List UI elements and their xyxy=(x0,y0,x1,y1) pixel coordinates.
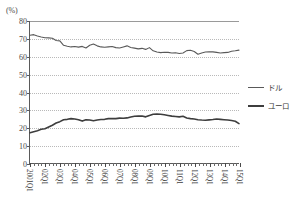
y-axis-tick-label: 40 xyxy=(19,88,27,97)
legend-item: ユーロ xyxy=(248,100,289,111)
x-axis-tick-mark xyxy=(229,163,230,166)
x-axis-tick-mark xyxy=(143,163,144,166)
x-axis-tick-mark xyxy=(165,163,166,167)
x-axis-tick-label: 13Q1 xyxy=(205,169,213,185)
x-axis-tick-mark xyxy=(203,163,204,166)
x-axis-tick-mark xyxy=(233,163,234,166)
x-axis-tick-mark xyxy=(83,163,84,166)
x-axis-tick-mark xyxy=(41,163,42,166)
x-axis-tick-label: 10Q1 xyxy=(160,169,168,185)
x-axis-tick-mark xyxy=(236,163,237,166)
x-axis-tick-mark xyxy=(131,163,132,166)
y-axis-tick-label: 30 xyxy=(19,106,27,115)
y-axis-tick-label: 60 xyxy=(19,52,27,61)
legend-label: ドル xyxy=(268,82,282,93)
x-axis-tick-mark xyxy=(221,163,222,166)
x-axis-tick-mark xyxy=(105,163,106,167)
x-axis-tick-label: 06Q1 xyxy=(100,169,108,185)
y-axis-tick-label: 80 xyxy=(19,17,27,26)
x-axis-tick-label: 04Q1 xyxy=(70,169,78,185)
chart-root: (%) 01020304050607080 2001Q102Q103Q104Q1… xyxy=(0,0,305,216)
x-axis-tick-mark xyxy=(135,163,136,167)
x-axis-tick-label: 09Q1 xyxy=(145,169,153,185)
x-axis-tick-mark xyxy=(161,163,162,166)
x-axis-tick-mark xyxy=(199,163,200,166)
x-axis-tick-mark xyxy=(60,163,61,167)
x-axis-tick-mark xyxy=(75,163,76,167)
legend-label: ユーロ xyxy=(268,100,289,111)
x-axis-tick-label: 11Q1 xyxy=(175,169,183,184)
x-axis-tick-mark xyxy=(146,163,147,166)
x-axis-tick-mark xyxy=(150,163,151,167)
x-axis-tick-mark xyxy=(49,163,50,166)
x-axis-tick-mark xyxy=(180,163,181,167)
x-axis-tick-mark xyxy=(98,163,99,166)
x-axis-tick-mark xyxy=(184,163,185,166)
x-axis-tick-mark xyxy=(169,163,170,166)
x-axis-tick-mark xyxy=(176,163,177,166)
x-axis-tick-mark xyxy=(109,163,110,166)
x-axis-tick-label: 15Q1 xyxy=(235,169,243,185)
x-axis-tick-mark xyxy=(120,163,121,167)
x-axis-tick-label: 08Q1 xyxy=(130,169,138,185)
x-axis-tick-mark xyxy=(86,163,87,166)
y-axis-tick-label: 10 xyxy=(19,142,27,151)
x-axis-tick-mark xyxy=(71,163,72,166)
y-axis-unit-label: (%) xyxy=(6,6,17,15)
x-axis-tick-mark xyxy=(191,163,192,166)
x-axis-tick-mark xyxy=(139,163,140,166)
x-axis-tick-mark xyxy=(116,163,117,166)
x-axis-tick-mark xyxy=(188,163,189,166)
series-line xyxy=(30,35,239,55)
x-axis-tick-mark xyxy=(218,163,219,166)
x-axis-tick-mark xyxy=(56,163,57,166)
x-axis-tick-mark xyxy=(38,163,39,166)
x-axis-tick-mark xyxy=(34,163,35,166)
x-axis-tick-mark xyxy=(240,163,241,167)
x-axis-tick-label: 2001Q1 xyxy=(25,169,33,192)
x-axis-tick-mark xyxy=(214,163,215,166)
plot-area: 01020304050607080 2001Q102Q103Q104Q105Q1… xyxy=(29,21,239,164)
x-axis-tick-label: 03Q1 xyxy=(55,169,63,185)
chart-legend: ドルユーロ xyxy=(248,82,289,118)
x-axis-tick-label: 02Q1 xyxy=(40,169,48,185)
series-line xyxy=(30,114,239,133)
x-axis-tick-label: 05Q1 xyxy=(85,169,93,185)
x-axis-tick-mark xyxy=(124,163,125,166)
x-axis-tick-mark xyxy=(154,163,155,166)
x-axis-tick-label: 14Q1 xyxy=(220,169,228,185)
x-axis-tick-mark xyxy=(173,163,174,166)
x-axis-tick-mark xyxy=(79,163,80,166)
x-axis-tick-mark xyxy=(210,163,211,167)
x-axis-tick-mark xyxy=(101,163,102,166)
x-axis-tick-mark xyxy=(206,163,207,166)
x-axis-tick-mark xyxy=(68,163,69,166)
x-axis-tick-mark xyxy=(45,163,46,167)
x-axis-tick-mark xyxy=(128,163,129,166)
x-axis-tick-mark xyxy=(195,163,196,167)
legend-item: ドル xyxy=(248,82,289,93)
x-axis-tick-mark xyxy=(113,163,114,166)
x-axis-tick-mark xyxy=(94,163,95,166)
y-axis-tick-label: 20 xyxy=(19,124,27,133)
x-axis-tick-mark xyxy=(225,163,226,167)
series-lines-group xyxy=(30,21,239,163)
x-axis-tick-mark xyxy=(90,163,91,167)
x-axis-tick-mark xyxy=(64,163,65,166)
y-axis-tick-label: 70 xyxy=(19,34,27,43)
x-axis-tick-mark xyxy=(53,163,54,166)
x-axis-tick-mark xyxy=(30,163,31,167)
legend-swatch-icon xyxy=(248,105,264,107)
x-axis-tick-mark xyxy=(158,163,159,166)
y-axis-tick-label: 50 xyxy=(19,70,27,79)
legend-swatch-icon xyxy=(248,87,264,88)
x-axis-tick-label: 07Q1 xyxy=(115,169,123,185)
x-axis-tick-label: 12Q1 xyxy=(190,169,198,185)
